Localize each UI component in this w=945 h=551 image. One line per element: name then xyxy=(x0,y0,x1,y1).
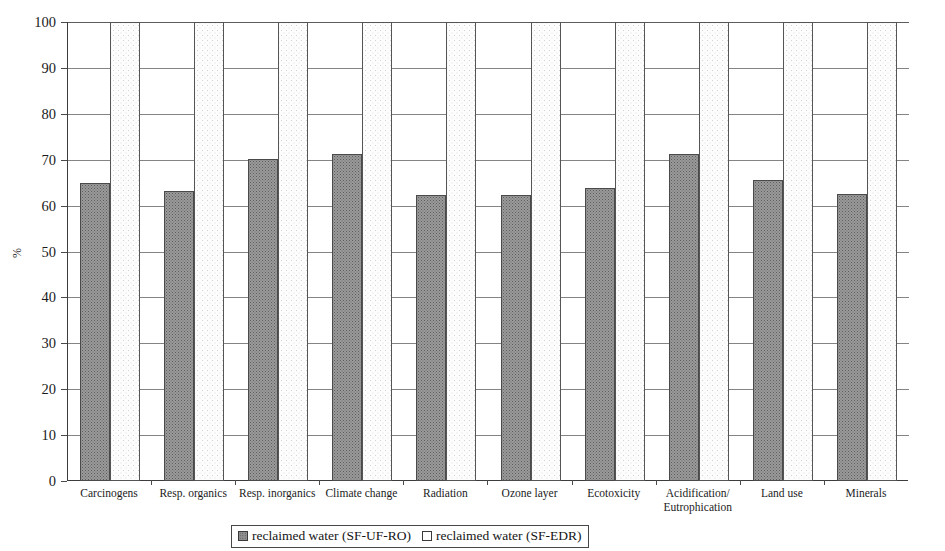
legend-swatch-dark-icon xyxy=(238,531,248,541)
bar xyxy=(416,195,446,481)
bar-group xyxy=(68,22,152,481)
bar xyxy=(753,180,783,481)
bar xyxy=(585,188,615,481)
bar-group xyxy=(825,22,909,481)
plot-area xyxy=(67,22,908,481)
bar xyxy=(362,22,392,481)
legend-item-sf-uf-ro: reclaimed water (SF-UF-RO) xyxy=(238,528,411,544)
y-axis-tick-label: 60 xyxy=(14,197,56,214)
y-axis-tick-label: 90 xyxy=(14,59,56,76)
y-axis-tick-mark xyxy=(61,481,67,482)
legend-label: reclaimed water (SF-EDR) xyxy=(436,528,581,544)
bar xyxy=(531,22,561,481)
bar xyxy=(164,191,194,481)
bar xyxy=(783,22,813,481)
bar xyxy=(80,183,110,481)
bar-groups xyxy=(68,22,909,481)
y-axis-tick-label: 10 xyxy=(14,427,56,444)
y-axis-tick-labels: 1009080706050403020100 xyxy=(12,0,56,551)
bar-chart-figure: % 1009080706050403020100 CarcinogensResp… xyxy=(0,0,945,551)
bar-group xyxy=(320,22,404,481)
x-axis-tick-label: Ecotoxicity xyxy=(572,487,656,501)
legend-swatch-light-icon xyxy=(422,531,432,541)
bar xyxy=(248,159,278,481)
y-axis-tick-label: 20 xyxy=(14,381,56,398)
x-axis-tick-label: Carcinogens xyxy=(67,487,151,501)
bar-group xyxy=(404,22,488,481)
y-axis-tick-label: 40 xyxy=(14,289,56,306)
bar-group xyxy=(741,22,825,481)
bar xyxy=(867,22,897,481)
bar xyxy=(110,22,140,481)
x-axis-tick-label: Radiation xyxy=(403,487,487,501)
y-axis-tick-label: 80 xyxy=(14,105,56,122)
x-axis-tick-label: Climate change xyxy=(319,487,403,501)
x-axis-tick-label: Resp. inorganics xyxy=(235,487,319,501)
y-axis-tick-label: 50 xyxy=(14,243,56,260)
x-axis-tick-label: Acidification/Eutrophication xyxy=(656,487,740,514)
y-axis-tick-label: 70 xyxy=(14,151,56,168)
bar xyxy=(837,194,867,481)
bar-group xyxy=(657,22,741,481)
y-axis-tick-label: 0 xyxy=(14,473,56,490)
bar-group xyxy=(573,22,657,481)
bar xyxy=(615,22,645,481)
legend-label: reclaimed water (SF-UF-RO) xyxy=(252,528,411,544)
bar xyxy=(332,154,362,481)
legend-item-sf-edr: reclaimed water (SF-EDR) xyxy=(422,528,581,544)
bar xyxy=(699,22,729,481)
bar-group xyxy=(152,22,236,481)
bar xyxy=(278,22,308,481)
y-axis-tick-label: 100 xyxy=(14,14,56,31)
bar-group xyxy=(236,22,320,481)
x-axis-tick-label: Ozone layer xyxy=(488,487,572,501)
bar-group xyxy=(489,22,573,481)
chart-legend: reclaimed water (SF-UF-RO) reclaimed wat… xyxy=(231,525,589,548)
bar xyxy=(194,22,224,481)
x-axis-tick-label: Minerals xyxy=(824,487,908,501)
x-axis-tick-label: Land use xyxy=(740,487,824,501)
bar xyxy=(501,195,531,481)
y-axis-tick-label: 30 xyxy=(14,335,56,352)
x-axis-tick-label: Resp. organics xyxy=(151,487,235,501)
bar xyxy=(446,22,476,481)
x-axis-tick-labels: CarcinogensResp. organicsResp. inorganic… xyxy=(67,487,908,527)
bar xyxy=(669,154,699,481)
